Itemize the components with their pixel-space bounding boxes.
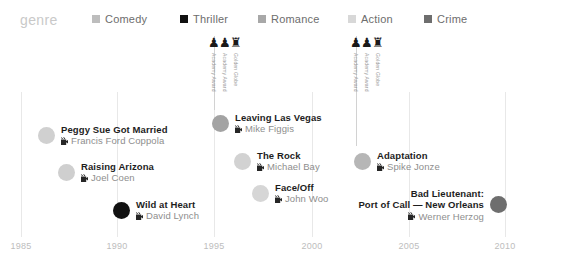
trophy-award-label: Academy Award <box>353 53 359 92</box>
film-director-row: Werner Herzog <box>408 211 484 223</box>
film-title: Raising Arizona <box>81 161 154 173</box>
film-marker[interactable]: Bad Lieutenant:Port of Call — New Orlean… <box>0 188 507 223</box>
film-genre-dot[interactable] <box>38 127 55 144</box>
film-director-name: Francis Ford Coppola <box>71 135 164 147</box>
film-label: The RockMichael Bay <box>251 150 326 173</box>
film-genre-dot[interactable] <box>354 153 371 170</box>
film-genre-dot[interactable] <box>58 164 75 181</box>
trophy-award-label: Academy Award <box>364 53 370 92</box>
film-genre-dot[interactable] <box>490 196 507 213</box>
film-director-name: Werner Herzog <box>418 211 484 223</box>
film-title-line2: Port of Call — New Orleans <box>358 199 484 211</box>
movie-camera-icon <box>257 163 264 171</box>
film-director-row: Mike Figgis <box>235 123 322 135</box>
trophy-icon[interactable]: ♟Academy Award <box>219 36 230 49</box>
movie-camera-icon <box>377 163 384 171</box>
film-label: Raising ArizonaJoel Coen <box>75 161 160 184</box>
film-director-row: Michael Bay <box>257 161 320 173</box>
trophy-award-label: Golden Globe <box>233 53 239 86</box>
x-axis-tick-label: 1995 <box>203 241 224 251</box>
trophy-glyph-icon: ♜ <box>230 36 241 49</box>
film-director-row: Francis Ford Coppola <box>61 135 168 147</box>
film-label: Bad Lieutenant:Port of Call — New Orlean… <box>352 188 490 223</box>
trophy-award-label: Academy Award <box>222 53 228 92</box>
film-label: Leaving Las VegasMike Figgis <box>229 112 328 135</box>
trophy-glyph-icon: ♜ <box>372 36 383 49</box>
film-marker[interactable]: Peggy Sue Got MarriedFrancis Ford Coppol… <box>38 124 174 147</box>
film-label: Peggy Sue Got MarriedFrancis Ford Coppol… <box>55 124 174 147</box>
trophy-icon[interactable]: ♟Academy Award <box>208 36 219 49</box>
film-title: Peggy Sue Got Married <box>61 124 168 136</box>
film-director-name: Spike Jonze <box>387 161 440 173</box>
film-title: The Rock <box>257 150 320 162</box>
film-title: Adaptation <box>377 150 440 162</box>
movie-camera-icon <box>61 137 68 145</box>
trophy-icon[interactable]: ♟Academy Award <box>350 36 361 49</box>
film-label: AdaptationSpike Jonze <box>371 150 446 173</box>
trophy-glyph-icon: ♟ <box>361 36 372 49</box>
x-axis-tick-label: 2000 <box>301 241 322 251</box>
trophy-glyph-icon: ♟ <box>208 36 219 49</box>
trophy-award-label: Golden Globe <box>375 53 381 86</box>
film-director-name: Joel Coen <box>91 172 135 184</box>
movie-camera-icon <box>81 174 88 182</box>
trophy-award-label: Academy Award <box>211 53 217 92</box>
trophy-icon[interactable]: ♜Golden Globe <box>372 36 383 49</box>
x-axis-tick-label: 2010 <box>494 241 515 251</box>
movie-camera-icon <box>235 125 242 133</box>
film-director-row: Spike Jonze <box>377 161 440 173</box>
film-title: Bad Lieutenant: <box>411 188 484 200</box>
film-genre-dot[interactable] <box>234 153 251 170</box>
film-marker[interactable]: AdaptationSpike Jonze <box>354 150 446 173</box>
film-director-name: Mike Figgis <box>245 123 294 135</box>
trophy-icon[interactable]: ♟Academy Award <box>361 36 372 49</box>
trophy-glyph-icon: ♟ <box>350 36 361 49</box>
x-axis-tick-label: 2005 <box>398 241 419 251</box>
trophy-glyph-icon: ♟ <box>219 36 230 49</box>
film-director-name: Michael Bay <box>267 161 320 173</box>
timeline-plot: 198519901995200020052010♟Academy Award♟A… <box>0 0 566 265</box>
x-axis-tick-label: 1985 <box>10 241 31 251</box>
movie-camera-icon <box>408 212 415 220</box>
x-axis-tick-label: 1990 <box>106 241 127 251</box>
film-title: Leaving Las Vegas <box>235 112 322 124</box>
film-marker[interactable]: Leaving Las VegasMike Figgis <box>212 112 328 135</box>
film-marker[interactable]: Raising ArizonaJoel Coen <box>58 161 160 184</box>
film-director-row: Joel Coen <box>81 172 154 184</box>
film-marker[interactable]: The RockMichael Bay <box>234 150 326 173</box>
film-genre-dot[interactable] <box>212 115 229 132</box>
trophy-icon[interactable]: ♜Golden Globe <box>230 36 241 49</box>
